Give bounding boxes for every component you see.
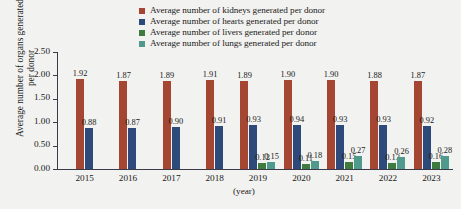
y-axis-tick-label: 1.50 <box>34 92 50 103</box>
bar-hearts-2019[interactable]: 0.93 <box>249 52 257 169</box>
legend-item-lungs[interactable]: Average number of lungs generated per do… <box>139 38 439 49</box>
plot-area: 0.000.501.001.502.002.50 1.920.8820151.8… <box>57 52 453 170</box>
x-axis-tick-label-2015: 2015 <box>75 173 93 184</box>
y-axis-tick-label: 1.00 <box>34 116 50 127</box>
bar-hearts-2022[interactable]: 0.93 <box>379 52 387 169</box>
legend-label-lungs: Average number of lungs generated per do… <box>150 38 317 49</box>
bar-rect-lungs[interactable] <box>397 157 405 169</box>
bar-group-2015: 1.920.882015 <box>63 52 106 169</box>
y-axis-line <box>57 52 58 170</box>
bar-value-label: 0.91 <box>212 116 227 125</box>
y-axis-tick: 2.00 <box>53 75 57 76</box>
bar-lungs-2021[interactable]: 0.27 <box>354 52 362 169</box>
bar-rect-kidneys[interactable] <box>240 81 248 169</box>
bar-group-bars: 1.900.930.150.27 <box>323 52 366 169</box>
x-axis-tick-label-2019: 2019 <box>249 173 267 184</box>
legend-label-kidneys: Average number of kidneys generated per … <box>150 5 325 16</box>
bar-value-label: 0.26 <box>394 147 409 156</box>
bar-group-2017: 1.890.902017 <box>150 52 193 169</box>
legend-item-kidneys[interactable]: Average number of kidneys generated per … <box>139 5 439 16</box>
bar-kidneys-2018[interactable]: 1.91 <box>206 52 214 169</box>
bar-hearts-2018[interactable]: 0.91 <box>215 52 223 169</box>
bar-group-2022: 1.880.930.130.262022 <box>366 52 409 169</box>
bar-value-label: 0.18 <box>307 151 322 160</box>
bar-rect-livers[interactable] <box>388 163 396 169</box>
bar-group-2018: 1.910.912018 <box>193 52 236 169</box>
bar-kidneys-2022[interactable]: 1.88 <box>370 52 378 169</box>
y-axis-tick: 1.00 <box>53 122 57 123</box>
bar-hearts-2015[interactable]: 0.88 <box>85 52 93 169</box>
bar-rect-livers[interactable] <box>345 162 353 169</box>
bar-lungs-2020[interactable]: 0.18 <box>311 52 319 169</box>
bar-rect-hearts[interactable] <box>336 125 344 169</box>
bar-kidneys-2017[interactable]: 1.89 <box>163 52 171 169</box>
bar-value-label: 0.28 <box>437 146 452 155</box>
bar-group-2016: 1.870.872016 <box>106 52 149 169</box>
bar-group-bars: 1.910.91 <box>193 52 236 169</box>
bar-rect-hearts[interactable] <box>423 126 431 169</box>
bar-chart-figure: Average number of kidneys generated per … <box>0 0 461 209</box>
legend-swatch-lungs-icon <box>139 41 145 47</box>
bar-rect-livers[interactable] <box>258 163 266 169</box>
bar-group-2019: 1.890.930.120.152019 <box>236 52 279 169</box>
bar-rect-kidneys[interactable] <box>284 80 292 169</box>
bar-rect-lungs[interactable] <box>311 161 319 169</box>
bar-rect-hearts[interactable] <box>379 125 387 169</box>
bar-kidneys-2015[interactable]: 1.92 <box>76 52 84 169</box>
x-axis-tick-label-2022: 2022 <box>379 173 397 184</box>
legend-swatch-kidneys-icon <box>139 8 145 14</box>
bar-rect-hearts[interactable] <box>85 128 93 169</box>
y-axis-tick: 2.50 <box>53 52 57 53</box>
bar-group-bars: 1.900.940.110.18 <box>280 52 323 169</box>
legend-swatch-livers-icon <box>139 30 145 36</box>
bar-lungs-2022[interactable]: 0.26 <box>397 52 405 169</box>
bar-kidneys-2016[interactable]: 1.87 <box>119 52 127 169</box>
bar-kidneys-2023[interactable]: 1.87 <box>414 52 422 169</box>
bar-rect-hearts[interactable] <box>249 125 257 169</box>
bar-rect-hearts[interactable] <box>172 127 180 169</box>
bar-hearts-2020[interactable]: 0.94 <box>293 52 301 169</box>
bar-kidneys-2020[interactable]: 1.90 <box>284 52 292 169</box>
bar-rect-livers[interactable] <box>432 162 440 169</box>
bar-value-label: 0.15 <box>264 152 279 161</box>
y-axis-tick: 0.50 <box>53 146 57 147</box>
bar-lungs-2019[interactable]: 0.15 <box>267 52 275 169</box>
bar-group-2021: 1.900.930.150.272021 <box>323 52 366 169</box>
bar-group-bars: 1.880.930.130.26 <box>366 52 409 169</box>
y-axis-tick-label: 2.50 <box>34 46 50 57</box>
legend-item-livers[interactable]: Average number of livers generated per d… <box>139 27 439 38</box>
chart-legend: Average number of kidneys generated per … <box>139 5 439 49</box>
bar-rect-kidneys[interactable] <box>414 81 422 169</box>
bar-group-bars: 1.890.930.120.15 <box>236 52 279 169</box>
x-axis-tick-label-2020: 2020 <box>292 173 310 184</box>
y-axis-tick-label: 0.50 <box>34 139 50 150</box>
bar-kidneys-2019[interactable]: 1.89 <box>240 52 248 169</box>
bar-hearts-2017[interactable]: 0.90 <box>172 52 180 169</box>
y-axis-tick: 0.00 <box>53 169 57 170</box>
bar-rect-lungs[interactable] <box>267 162 275 169</box>
y-axis-tick: 1.50 <box>53 99 57 100</box>
bar-rect-kidneys[interactable] <box>327 80 335 169</box>
bar-rect-livers[interactable] <box>302 164 310 169</box>
bar-value-label: 0.88 <box>82 118 97 127</box>
bar-rect-kidneys[interactable] <box>370 81 378 169</box>
legend-item-hearts[interactable]: Average number of hearts generated per d… <box>139 16 439 27</box>
legend-label-hearts: Average number of hearts generated per d… <box>150 16 319 27</box>
x-axis-title: (year) <box>233 186 255 197</box>
x-axis-tick-label-2017: 2017 <box>162 173 180 184</box>
bar-lungs-2023[interactable]: 0.28 <box>441 52 449 169</box>
bar-rect-hearts[interactable] <box>215 126 223 169</box>
y-axis-tick-label: 0.00 <box>34 163 50 174</box>
x-axis-tick-label-2021: 2021 <box>335 173 353 184</box>
bar-value-label: 0.87 <box>125 118 140 127</box>
bar-rect-hearts[interactable] <box>128 128 136 169</box>
bar-group-2020: 1.900.940.110.182020 <box>280 52 323 169</box>
bar-rect-lungs[interactable] <box>441 156 449 169</box>
bar-rect-lungs[interactable] <box>354 156 362 169</box>
bar-group-bars: 1.870.87 <box>106 52 149 169</box>
bar-kidneys-2021[interactable]: 1.90 <box>327 52 335 169</box>
x-axis-tick-label-2018: 2018 <box>205 173 223 184</box>
bar-hearts-2016[interactable]: 0.87 <box>128 52 136 169</box>
bar-value-label: 0.27 <box>351 146 366 155</box>
bar-group-bars: 1.870.920.160.28 <box>410 52 453 169</box>
